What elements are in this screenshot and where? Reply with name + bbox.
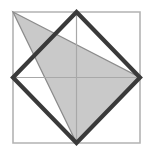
geometry-diagram bbox=[0, 0, 152, 155]
figure-container bbox=[0, 0, 152, 155]
